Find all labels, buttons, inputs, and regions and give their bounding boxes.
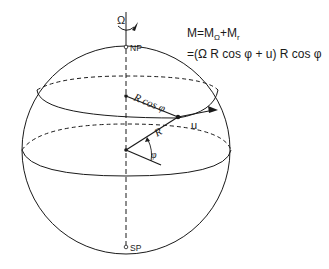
velocity-vector bbox=[178, 110, 214, 117]
formula-lhs: M=M bbox=[187, 26, 214, 40]
north-pole-label: NP bbox=[130, 43, 142, 53]
rotation-arrowhead-icon bbox=[132, 22, 138, 31]
velocity-label: u bbox=[191, 119, 197, 131]
latitude-circle-back bbox=[37, 76, 218, 90]
formula-line-1: M=MΩ+Mr bbox=[187, 25, 322, 46]
radius-line bbox=[126, 117, 178, 150]
omega-label: Ω bbox=[117, 14, 125, 26]
formula-sub-r: r bbox=[237, 33, 240, 42]
formula-mid: +M bbox=[220, 26, 237, 40]
south-pole-label: SP bbox=[130, 243, 142, 253]
velocity-arrowhead-icon bbox=[208, 106, 218, 113]
angular-momentum-formula: M=MΩ+Mr =(Ω R cos φ + u) R cos φ bbox=[187, 25, 322, 63]
r-cos-phi-label: R cos φ bbox=[131, 90, 167, 114]
formula-line-2: =(Ω R cos φ + u) R cos φ bbox=[187, 46, 322, 63]
south-pole-marker bbox=[124, 245, 128, 249]
phi-label: φ bbox=[151, 149, 157, 160]
north-pole-marker bbox=[124, 45, 128, 49]
latitude-circle-front bbox=[37, 90, 218, 118]
